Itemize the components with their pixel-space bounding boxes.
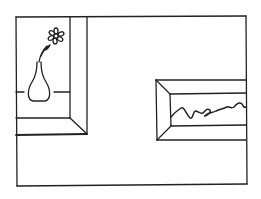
horizon-line [171,103,246,118]
wall-outline [16,16,247,186]
vase-with-flower-picture [16,17,87,135]
flower-icon [47,28,64,44]
drawing-canvas [0,0,261,199]
vase-icon [28,62,49,101]
landscape-picture [156,80,246,140]
